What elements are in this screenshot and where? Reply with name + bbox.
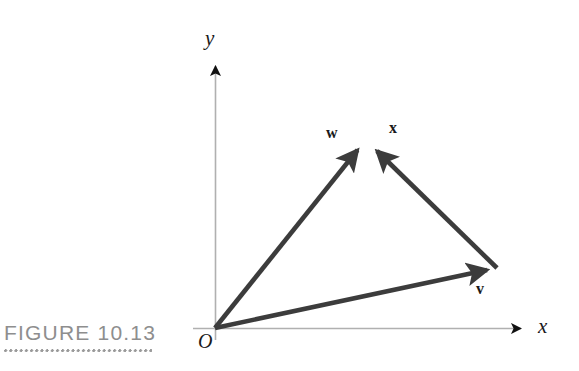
vectors-group: [215, 150, 497, 328]
figure-caption-text: FIGURE 10.13: [4, 320, 164, 345]
vector-diagram: [0, 0, 579, 371]
y-axis-label: y: [205, 28, 214, 49]
caption-dotted-rule: [4, 349, 152, 353]
origin-label: O: [198, 331, 212, 351]
vector-x: [377, 151, 497, 268]
figure-caption-block: FIGURE 10.13: [4, 320, 164, 353]
x-axis-label: x: [538, 316, 547, 337]
figure-container: y x O w x v FIGURE 10.13: [0, 0, 579, 371]
vector-label-v: v: [476, 281, 484, 297]
vector-label-x: x: [389, 120, 397, 136]
vector-label-w: w: [326, 125, 338, 141]
